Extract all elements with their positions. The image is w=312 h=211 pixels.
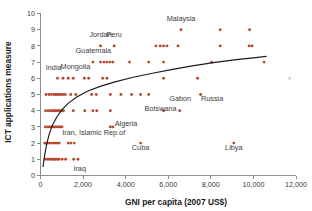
country-label: Guatemala — [75, 46, 112, 55]
data-point — [159, 44, 162, 47]
data-point — [64, 93, 67, 96]
y-tick-label: 1 — [31, 155, 35, 164]
data-point — [102, 61, 105, 64]
data-point — [91, 109, 94, 112]
data-point — [248, 44, 251, 47]
country-label: Peru — [106, 30, 121, 39]
data-point — [74, 93, 77, 96]
data-point — [48, 93, 51, 96]
data-point — [128, 61, 131, 64]
y-tick-label: 5 — [31, 90, 35, 99]
data-point — [73, 142, 76, 145]
country-label: Botswana — [145, 104, 178, 113]
data-point — [120, 93, 123, 96]
data-point — [90, 93, 93, 96]
data-point — [77, 158, 80, 161]
country-label: Libya — [225, 143, 243, 152]
data-point — [83, 77, 86, 80]
data-point — [72, 158, 75, 161]
data-point — [44, 109, 47, 112]
data-point — [251, 44, 254, 47]
data-point — [72, 109, 75, 112]
data-point — [147, 93, 150, 96]
y-tick-labels: 012345678910 — [27, 9, 35, 180]
data-point — [56, 77, 59, 80]
data-point — [95, 109, 98, 112]
y-tick-label: 0 — [31, 171, 35, 180]
data-point — [109, 93, 112, 96]
y-axis-title: ICT applications measure — [3, 41, 13, 143]
data-point — [219, 44, 222, 47]
data-point — [67, 77, 70, 80]
data-point — [113, 44, 116, 47]
data-point — [72, 77, 75, 80]
y-tick-label: 7 — [31, 58, 35, 67]
data-point — [196, 77, 199, 80]
data-point — [263, 61, 266, 64]
data-point — [69, 142, 72, 145]
country-label: Iran, Islamic Rep.of — [62, 128, 126, 137]
scatter-plot: 02,0004,0006,0008,00010,00012,000 012345… — [0, 0, 312, 211]
data-point — [101, 77, 104, 80]
y-tick-label: 10 — [27, 9, 35, 18]
data-point — [67, 142, 70, 145]
country-label: Algeria — [115, 119, 139, 128]
country-label: Iraq — [73, 164, 86, 173]
data-point — [166, 44, 169, 47]
data-point — [62, 77, 65, 80]
data-point — [177, 44, 180, 47]
x-tick-label: 0 — [39, 180, 43, 189]
data-point — [45, 93, 48, 96]
data-point — [105, 77, 108, 80]
ticks-group — [37, 14, 296, 179]
x-tick-label: 4,000 — [117, 180, 135, 189]
x-tick-label: 6,000 — [159, 180, 177, 189]
data-point — [91, 61, 94, 64]
data-point — [58, 158, 61, 161]
country-label: Malaysia — [167, 14, 197, 23]
y-tick-label: 9 — [31, 25, 35, 34]
y-tick-label: 3 — [31, 123, 35, 132]
x-tick-labels: 02,0004,0006,0008,00010,00012,000 — [39, 180, 307, 189]
data-point — [219, 28, 222, 31]
data-point — [83, 109, 86, 112]
data-point — [61, 158, 64, 161]
data-point — [64, 158, 67, 161]
data-point — [130, 93, 133, 96]
x-tick-label: 2,000 — [74, 180, 92, 189]
data-point — [154, 44, 157, 47]
x-axis-title: GNI per capita (2007 US$) — [125, 197, 227, 207]
y-tick-label: 4 — [31, 106, 35, 115]
data-point — [248, 28, 251, 31]
x-tick-label: 10,000 — [242, 180, 264, 189]
data-point — [288, 77, 291, 80]
data-point — [162, 77, 165, 80]
country-label: Mongolia — [61, 62, 92, 71]
data-point — [178, 109, 181, 112]
chart-figure: 02,0004,0006,0008,00010,00012,000 012345… — [0, 0, 312, 211]
data-point — [162, 44, 165, 47]
data-point — [147, 61, 150, 64]
data-point — [109, 109, 112, 112]
y-tick-label: 8 — [31, 42, 35, 51]
data-point — [99, 61, 102, 64]
x-tick-label: 12,000 — [285, 180, 307, 189]
data-point — [95, 93, 98, 96]
data-point — [50, 93, 53, 96]
x-tick-label: 8,000 — [202, 180, 220, 189]
data-point — [108, 61, 111, 64]
data-point — [58, 142, 61, 145]
country-label: Gabon — [169, 94, 191, 103]
data-point — [180, 28, 183, 31]
data-point — [139, 93, 142, 96]
data-point — [105, 61, 108, 64]
country-label: Cuba — [132, 143, 150, 152]
data-point — [111, 61, 114, 64]
country-label: Russia — [201, 94, 224, 103]
data-point — [69, 93, 72, 96]
y-tick-label: 6 — [31, 74, 35, 83]
data-point — [87, 77, 90, 80]
data-point — [162, 61, 165, 64]
y-tick-label: 2 — [31, 139, 35, 148]
